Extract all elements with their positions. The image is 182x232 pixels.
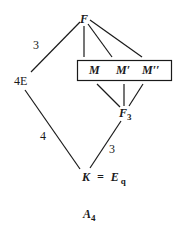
edge-f-m2 (90, 20, 142, 57)
edge-m2-f3 (129, 84, 143, 106)
edge-label-top-left: 3 (33, 39, 39, 51)
caption: A4 (83, 208, 96, 220)
node-m-prime: M′ (116, 64, 130, 76)
node-f3-sub: 3 (127, 112, 132, 122)
edge-label-mid-bottom: 3 (109, 143, 115, 155)
node-f3: F3 (119, 107, 132, 119)
lattice-lines (0, 0, 182, 232)
node-4e: 4E (14, 75, 27, 87)
node-m-double-prime: M′′ (142, 64, 159, 76)
node-m: M (89, 64, 100, 76)
node-f3-text: F (119, 106, 127, 120)
node-4e-text: 4E (14, 74, 27, 88)
node-f: F (80, 13, 88, 25)
edge-f3-k (90, 121, 121, 168)
edge-label-left-bottom: 4 (40, 130, 46, 142)
edge-4e-k (25, 90, 80, 169)
node-k-text: K = E (82, 170, 121, 184)
caption-text: A (83, 207, 91, 221)
edge-m-f3 (97, 84, 120, 107)
node-k-sub: q (121, 176, 128, 186)
node-k: K = Eq (82, 171, 128, 183)
caption-sub: 4 (91, 213, 96, 223)
edge-f-m1 (88, 24, 112, 57)
